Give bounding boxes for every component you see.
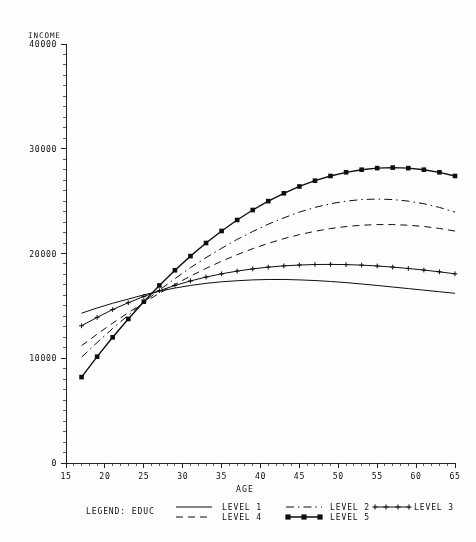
legend-title: LEGEND: EDUC: [86, 507, 155, 516]
x-axis-ticks: [66, 463, 455, 468]
data-point-marker: [375, 166, 380, 171]
data-point-marker: [297, 184, 302, 189]
data-point-marker: [359, 167, 364, 172]
legend-marker: [301, 514, 306, 519]
y-tick-label: 40000: [29, 39, 57, 49]
y-axis-ticks: [61, 44, 66, 463]
x-tick-label: 45: [294, 471, 305, 481]
data-point-marker: [406, 166, 411, 171]
x-tick-label: 55: [372, 471, 383, 481]
series-level-2: [82, 199, 455, 357]
data-point-marker: [157, 283, 162, 288]
y-tick-label: 10000: [29, 353, 57, 363]
x-tick-label: 60: [411, 471, 422, 481]
data-point-marker: [142, 299, 147, 304]
data-point-marker: [110, 335, 115, 340]
legend-entry-level-5[interactable]: LEVEL 5: [285, 513, 370, 522]
legend: LEGEND: EDUC LEVEL 1LEVEL 2LEVEL 3LEVEL …: [86, 503, 454, 522]
data-point-marker: [328, 174, 333, 179]
data-point-marker: [204, 241, 209, 246]
legend-marker: [285, 514, 290, 519]
x-tick-label: 30: [177, 471, 188, 481]
data-point-marker: [344, 170, 349, 175]
plot-page: 010000200003000040000 152025303540455055…: [0, 0, 476, 542]
x-tick-label: 25: [138, 471, 149, 481]
data-point-marker: [219, 229, 224, 234]
data-point-marker: [282, 191, 287, 196]
series-line: [82, 264, 455, 325]
data-point-marker: [453, 174, 458, 179]
data-point-marker: [422, 167, 427, 172]
axes: [66, 44, 455, 463]
data-point-marker: [313, 178, 318, 183]
data-point-marker: [266, 199, 271, 204]
data-point-marker: [173, 268, 178, 273]
legend-label: LEVEL 5: [330, 513, 370, 522]
data-point-marker: [95, 354, 100, 359]
legend-entry-level-2[interactable]: LEVEL 2: [286, 503, 370, 512]
legend-entry-level-4[interactable]: LEVEL 4: [176, 513, 262, 522]
legend-label: LEVEL 1: [222, 503, 262, 512]
series-level-5: [79, 165, 457, 379]
legend-label: LEVEL 4: [222, 513, 262, 522]
x-tick-label: 65: [449, 471, 460, 481]
series-line: [82, 225, 455, 346]
data-point-marker: [188, 254, 193, 259]
legend-entry-level-1[interactable]: LEVEL 1: [176, 503, 262, 512]
x-axis-title: AGE: [236, 484, 254, 494]
x-tick-label: 40: [255, 471, 266, 481]
legend-entry-level-3[interactable]: LEVEL 3: [372, 503, 454, 512]
legend-marker: [317, 514, 322, 519]
data-point-marker: [126, 317, 131, 322]
y-axis-title: INCOME: [28, 31, 61, 40]
y-tick-label: 0: [51, 458, 57, 468]
x-tick-label: 50: [333, 471, 344, 481]
data-point-marker: [235, 218, 240, 223]
data-point-marker: [79, 375, 84, 380]
series-line: [82, 199, 455, 357]
x-tick-label: 20: [99, 471, 110, 481]
x-axis-tick-labels: 1520253035404550556065: [60, 471, 460, 481]
data-point-marker: [390, 165, 395, 170]
legend-label: LEVEL 3: [414, 503, 454, 512]
series-level-4: [82, 225, 455, 346]
series-level-3: [79, 262, 457, 328]
data-point-marker: [250, 208, 255, 213]
x-tick-label: 15: [60, 471, 71, 481]
y-tick-label: 20000: [29, 249, 57, 259]
income-by-age-chart: 010000200003000040000 152025303540455055…: [0, 0, 476, 542]
y-axis-tick-labels: 010000200003000040000: [29, 39, 57, 468]
y-tick-label: 30000: [29, 144, 57, 154]
data-series-group: [79, 165, 457, 379]
legend-label: LEVEL 2: [330, 503, 370, 512]
data-point-marker: [437, 170, 442, 175]
x-tick-label: 35: [216, 471, 227, 481]
